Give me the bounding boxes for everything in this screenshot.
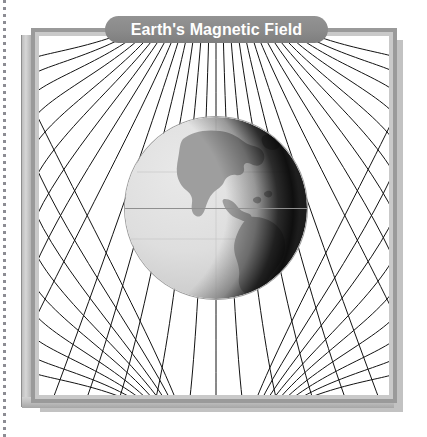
dotted-margin-rule: [3, 0, 6, 437]
figure-title: Earth's Magnetic Field: [131, 21, 302, 39]
diagram-viewport: [39, 36, 389, 395]
globe-equator-line: [125, 208, 307, 209]
title-banner: Earth's Magnetic Field: [105, 16, 328, 43]
globe-sphere: [125, 117, 307, 299]
earth-globe: [125, 117, 307, 299]
figure-canvas: Earth's Magnetic Field: [0, 0, 427, 437]
